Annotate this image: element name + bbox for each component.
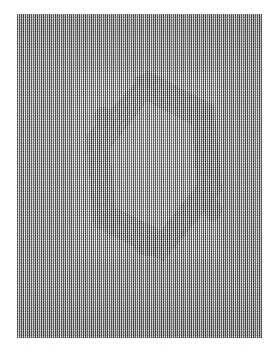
figure-page: Fig. 1. Optimized structure of the hexag… bbox=[0, 0, 279, 362]
figure-caption-strip: Fig. 1. Optimized structure of the hexag… bbox=[17, 345, 262, 362]
figure-caption-text: Fig. 1. Optimized structure of the hexag… bbox=[17, 345, 262, 347]
panel-vignette bbox=[17, 14, 262, 338]
halftone-image-panel bbox=[17, 14, 262, 338]
